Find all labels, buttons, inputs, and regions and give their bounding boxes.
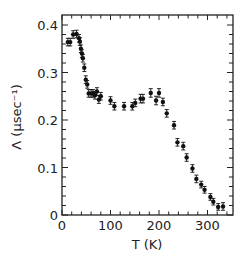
- marker-dot: [211, 200, 215, 204]
- data-point: [149, 89, 153, 98]
- data-point: [216, 204, 220, 211]
- marker-dot: [190, 166, 194, 170]
- marker-dot: [122, 104, 126, 108]
- marker-dot: [165, 111, 169, 115]
- data-point: [165, 110, 169, 118]
- x-tick-label: 0: [58, 218, 66, 233]
- marker-dot: [161, 100, 165, 104]
- plot-frame: [62, 15, 233, 215]
- data-point: [221, 203, 225, 211]
- marker-dot: [181, 144, 185, 148]
- marker-dot: [108, 98, 112, 102]
- x-tick-labels: 0100200300: [58, 218, 220, 233]
- y-tick-label: 0.2: [37, 113, 58, 128]
- x-tick-label: 300: [195, 218, 220, 233]
- marker-dot: [141, 96, 145, 100]
- data-point: [190, 165, 194, 173]
- data-point: [194, 175, 198, 183]
- x-tick-label: 200: [147, 218, 172, 233]
- axis-ticks: [62, 15, 233, 215]
- marker-dot: [80, 51, 84, 55]
- marker-dot: [216, 205, 220, 209]
- scatter-chart: 0100200300 00.10.20.30.4 T (K) Λ (μsec⁻¹…: [0, 0, 244, 261]
- x-tick-label: 100: [98, 218, 123, 233]
- marker-dot: [149, 91, 153, 95]
- y-tick-label: 0: [50, 208, 58, 223]
- data-point: [108, 97, 112, 105]
- y-tick-labels: 00.10.20.30.4: [37, 18, 58, 223]
- marker-dot: [74, 32, 78, 36]
- data-points: [66, 30, 226, 210]
- marker-dot: [184, 155, 188, 159]
- marker-dot: [133, 101, 137, 105]
- marker-dot: [68, 40, 72, 44]
- marker-dot: [154, 98, 158, 102]
- marker-dot: [130, 104, 134, 108]
- y-axis-label: Λ (μsec⁻¹): [9, 84, 24, 149]
- plot-border: [62, 15, 233, 215]
- data-point: [175, 139, 179, 147]
- y-tick-label: 0.4: [37, 18, 58, 33]
- data-point: [172, 121, 176, 129]
- marker-dot: [99, 94, 103, 98]
- marker-dot: [202, 188, 206, 192]
- y-tick-label: 0.1: [37, 161, 58, 176]
- marker-dot: [81, 56, 85, 60]
- marker-dot: [95, 89, 99, 93]
- data-point: [141, 94, 145, 103]
- data-point: [181, 142, 185, 150]
- marker-dot: [79, 47, 83, 51]
- marker-dot: [172, 123, 176, 127]
- marker-dot: [157, 91, 161, 95]
- x-axis-label: T (K): [131, 237, 163, 252]
- marker-dot: [112, 104, 116, 108]
- data-point: [184, 154, 188, 162]
- data-point: [112, 102, 116, 110]
- marker-dot: [175, 140, 179, 144]
- data-point: [211, 198, 215, 205]
- data-point: [161, 98, 165, 106]
- data-point: [208, 194, 212, 201]
- marker-dot: [82, 66, 86, 70]
- marker-dot: [194, 177, 198, 181]
- marker-dot: [78, 39, 82, 43]
- data-point: [68, 38, 72, 46]
- marker-dot: [221, 204, 225, 208]
- data-point: [122, 102, 126, 110]
- marker-dot: [85, 82, 89, 86]
- data-point: [82, 64, 86, 72]
- y-tick-label: 0.3: [37, 66, 58, 81]
